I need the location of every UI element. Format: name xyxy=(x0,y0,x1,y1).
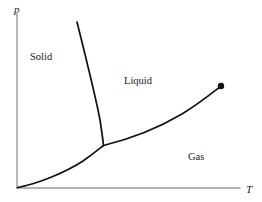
phase-diagram-figure: p T Solid Liquid Gas xyxy=(0,0,262,202)
phase-diagram-canvas xyxy=(0,0,262,202)
temperature-axis-label: T xyxy=(246,184,252,195)
critical-point-marker xyxy=(218,83,224,89)
vaporization-curve xyxy=(104,87,221,146)
pressure-axis-label: p xyxy=(14,4,20,15)
region-label-gas: Gas xyxy=(188,152,204,163)
sublimation-curve xyxy=(18,146,104,188)
region-label-liquid: Liquid xyxy=(124,76,152,87)
fusion-curve xyxy=(77,22,104,146)
region-label-solid: Solid xyxy=(30,52,52,63)
